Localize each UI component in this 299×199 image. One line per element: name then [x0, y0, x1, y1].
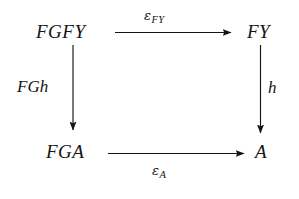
arrow-label-left: FGh — [17, 78, 48, 95]
node-top-right: FY — [247, 22, 270, 41]
epsilon-subscript-bottom: A — [160, 169, 167, 180]
arrow-label-right: h — [268, 79, 277, 96]
commutative-diagram: FGFY FY FGA A εFY εA FGh h — [0, 0, 299, 199]
epsilon-subscript-top: FY — [152, 14, 165, 25]
arrow-label-top: εFY — [144, 8, 164, 26]
node-top-left: FGFY — [36, 22, 86, 41]
node-bottom-right: A — [255, 142, 267, 161]
arrow-label-bottom: εA — [152, 163, 166, 181]
epsilon-symbol-bottom: ε — [152, 163, 159, 178]
epsilon-symbol-top: ε — [144, 8, 151, 23]
node-bottom-left: FGA — [46, 142, 84, 161]
